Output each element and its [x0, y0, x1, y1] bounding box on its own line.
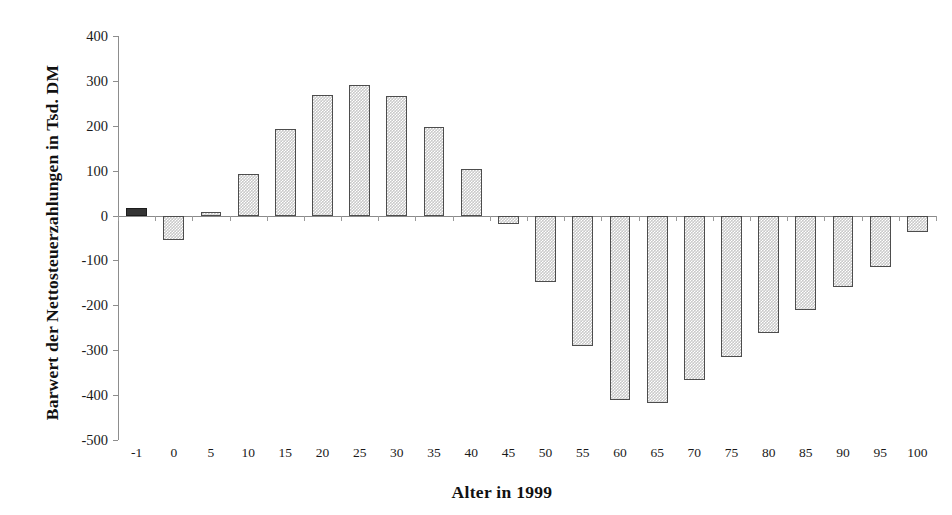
bar-0	[163, 216, 184, 241]
y-tick-mark	[113, 171, 118, 172]
x-tick-mark	[527, 216, 528, 221]
y-tick-label: -100	[50, 252, 108, 269]
x-tick-label-95: 95	[860, 446, 900, 460]
x-tick-label-65: 65	[637, 446, 677, 460]
x-tick-mark	[862, 216, 863, 221]
x-tick-mark	[787, 216, 788, 221]
x-tick-label-50: 50	[526, 446, 566, 460]
y-tick-label: 400	[50, 28, 108, 45]
bar-20	[312, 95, 333, 216]
x-tick-mark	[750, 216, 751, 221]
y-tick-label: -500	[50, 432, 108, 449]
bar-30	[386, 96, 407, 215]
x-tick-label-40: 40	[451, 446, 491, 460]
bar-65	[647, 216, 668, 404]
x-tick-mark	[230, 216, 231, 221]
y-tick-label: -300	[50, 342, 108, 359]
bar-35	[424, 127, 445, 215]
bar-15	[275, 129, 296, 215]
y-tick-label: 100	[50, 163, 108, 180]
chart-page: Barwert der Nettosteuerzahlungen in Tsd.…	[0, 0, 952, 515]
bar-25	[349, 85, 370, 216]
y-tick-mark	[113, 350, 118, 351]
x-tick-mark	[415, 216, 416, 221]
x-tick-mark	[118, 216, 119, 221]
x-tick-label-85: 85	[786, 446, 826, 460]
bar-45	[498, 216, 519, 224]
x-tick-label-25: 25	[340, 446, 380, 460]
plot-area: 4003002001000-100-200-300-400-500 -10510…	[118, 36, 936, 440]
y-tick-label: 300	[50, 73, 108, 90]
x-tick-mark	[192, 216, 193, 221]
x-tick-label-90: 90	[823, 446, 863, 460]
x-tick-label-60: 60	[600, 446, 640, 460]
x-tick-mark	[936, 216, 937, 221]
x-tick-mark	[378, 216, 379, 221]
x-tick-mark	[155, 216, 156, 221]
y-tick-mark	[113, 395, 118, 396]
y-tick-label: -400	[50, 387, 108, 404]
x-tick-label-30: 30	[377, 446, 417, 460]
bar-70	[684, 216, 705, 380]
y-tick-mark	[113, 305, 118, 306]
x-tick-mark	[564, 216, 565, 221]
x-tick-mark	[639, 216, 640, 221]
bar-10	[238, 174, 259, 215]
bar-55	[572, 216, 593, 346]
x-tick-mark	[304, 216, 305, 221]
x-tick-label-0: 0	[154, 446, 194, 460]
bar-5	[201, 212, 222, 215]
x-tick-mark	[341, 216, 342, 221]
bar-95	[870, 216, 891, 267]
x-tick-mark	[676, 216, 677, 221]
x-axis-title-wrap: Alter in 1999	[0, 482, 952, 503]
x-tick-label-5: 5	[191, 446, 231, 460]
x-tick-label-10: 10	[228, 446, 268, 460]
x-tick-mark	[713, 216, 714, 221]
x-tick-label-100: 100	[897, 446, 937, 460]
bar-80	[758, 216, 779, 334]
x-tick-label-15: 15	[265, 446, 305, 460]
x-tick-mark	[267, 216, 268, 221]
bar-75	[721, 216, 742, 357]
x-tick-mark	[824, 216, 825, 221]
y-tick-mark	[113, 126, 118, 127]
x-tick-mark	[601, 216, 602, 221]
x-tick-label-45: 45	[488, 446, 528, 460]
y-tick-label: 200	[50, 118, 108, 135]
y-axis-line	[118, 36, 119, 440]
x-tick-label-70: 70	[674, 446, 714, 460]
y-tick-mark	[113, 81, 118, 82]
x-tick-label-35: 35	[414, 446, 454, 460]
bar--1	[126, 208, 147, 216]
y-tick-mark	[113, 260, 118, 261]
x-tick-label-80: 80	[749, 446, 789, 460]
y-tick-mark	[113, 36, 118, 37]
x-tick-mark	[490, 216, 491, 221]
bar-90	[833, 216, 854, 288]
x-tick-label-75: 75	[712, 446, 752, 460]
bar-100	[907, 216, 928, 232]
bar-60	[610, 216, 631, 401]
x-axis-title: Alter in 1999	[452, 482, 553, 503]
x-axis-bottom-line	[118, 440, 936, 441]
bar-50	[535, 216, 556, 282]
x-tick-mark	[899, 216, 900, 221]
x-tick-label--1: -1	[117, 446, 157, 460]
y-tick-label: 0	[50, 208, 108, 225]
bar-40	[461, 169, 482, 215]
y-tick-label: -200	[50, 297, 108, 314]
bar-85	[795, 216, 816, 311]
x-tick-mark	[453, 216, 454, 221]
x-tick-label-20: 20	[303, 446, 343, 460]
x-tick-label-55: 55	[563, 446, 603, 460]
